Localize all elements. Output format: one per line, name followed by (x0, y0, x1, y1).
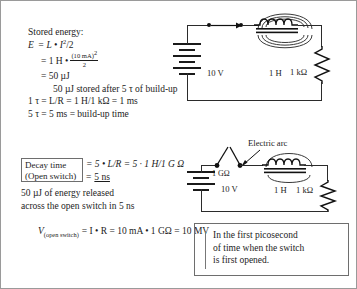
wire-right-lower (321, 82, 322, 101)
decay-time-value: 5 ns (94, 172, 110, 182)
decay-time-label-line-1: Decay time (25, 160, 79, 171)
wire-bottom-battery-bottom-lead (201, 189, 202, 211)
decay-time-label-line-2: (Open switch) (25, 171, 79, 182)
energy-storage-note: 50 µJ stored after 5 τ of build-up (28, 84, 178, 96)
wire-inductor-to-right (298, 25, 322, 26)
battery-bottom-label: 10 V (221, 185, 238, 194)
energy-rhs-LI: = L • I (38, 40, 63, 50)
resistor-bottom-label: 1 kΩ (296, 186, 313, 195)
energy-result: = 50 µJ (28, 71, 178, 83)
decay-equals-sign: = (86, 172, 91, 182)
build-up-time-line: 5 τ = 5 ms = build-up time (28, 109, 178, 121)
circuit-top: 10 V 1 H (186, 19, 351, 111)
current-squared-fraction: (10 mA)22 (70, 52, 98, 68)
callout-line-2: of time when the switch (213, 243, 304, 255)
battery-bottom-plate-short-1 (193, 177, 209, 179)
decay-equation-block: = 5 • L/R = 5 · 1 H/1 G Ω =5 ns (86, 159, 184, 183)
battery-plate-short-1 (179, 49, 195, 51)
time-constant-line: 1 τ = L/R = 1 H/1 kΩ = 1 ms (28, 96, 178, 108)
inductor-bottom-label: 1 H (274, 186, 287, 195)
time-constant-text: 1 τ = L/R = 1 H/1 kΩ = 1 ms (28, 96, 138, 106)
inductor-top (252, 3, 318, 61)
wire-bottom-rail (187, 100, 322, 101)
energy-substitution: = 1 H • (41, 56, 68, 66)
callout-line-1: In the first picosecond (213, 230, 304, 242)
callout-line-3: is first opened. (213, 255, 304, 267)
decay-equation-line-1: = 5 • L/R = 5 · 1 H/1 G Ω (86, 159, 184, 171)
stored-energy-block: Stored energy: E= L • I2/2 = 1 H •(10 mA… (28, 27, 178, 120)
energy-div-2: /2 (66, 40, 73, 50)
switch-gap-resistance-label: 1 GΩ (212, 169, 230, 178)
energy-symbol-E: E (28, 40, 34, 50)
battery-top-label: 10 V (207, 69, 224, 78)
decay-equation-line-2: =5 ns (86, 172, 184, 184)
numerator-text: (10 mA) (71, 52, 94, 59)
decay-note-line-1: 50 µJ of energy released (21, 188, 134, 200)
wire-battery-bottom-lead (187, 73, 188, 101)
wire-right-upper (321, 25, 322, 47)
current-direction-arrow (210, 21, 242, 31)
stored-energy-heading: Stored energy: (28, 27, 178, 39)
battery-bottom-plate-long-2 (187, 183, 215, 185)
figure-canvas: Stored energy: E= L • I2/2 = 1 H •(10 mA… (0, 0, 357, 289)
open-switch-voltage-equation: V(open switch)= I • R = 10 mA • 1 GΩ = 1… (38, 226, 209, 238)
decay-note-block: 50 µJ of energy released across the open… (21, 188, 134, 212)
voltage-equation-body: = I • R = 10 mA • 1 GΩ = 10 MV (82, 226, 209, 236)
fraction-numerator: (10 mA)2 (70, 52, 98, 61)
battery-plate-short-2 (179, 61, 195, 63)
wire-battery-top-lead (187, 25, 188, 44)
inductor-bottom (258, 145, 320, 187)
resistor-top-label: 1 kΩ (290, 68, 307, 77)
wire-bottom-rail-2 (201, 211, 328, 212)
resistor-top (312, 46, 332, 84)
battery-plate-long-3 (173, 67, 201, 69)
resistor-bottom (318, 180, 338, 212)
picosecond-callout-box: In the first picosecond of time when the… (194, 223, 349, 276)
inductor-top-label: 1 H (269, 69, 282, 78)
voltage-subscript: (open switch) (44, 231, 79, 238)
energy-equation-line-2: = 1 H •(10 mA)22 (28, 52, 178, 68)
callout-text-block: In the first picosecond of time when the… (213, 230, 304, 267)
wire-bottom-battery-top-lead (201, 165, 202, 173)
wire-bottom-right-upper (327, 165, 328, 181)
energy-equation-line-1: E= L • I2/2 (28, 40, 178, 52)
callout-vertical-rule (205, 231, 206, 269)
circuit-bottom: Electric arc 10 V 1 GΩ (200, 141, 357, 216)
wire-top-left (187, 25, 209, 26)
wire-bottom-inductor-to-right (304, 165, 328, 166)
numerator-exponent: 2 (94, 49, 97, 56)
decay-note-line-2: across the open switch in 5 ns (21, 201, 134, 213)
fraction-denominator: 2 (70, 61, 98, 69)
battery-plate-long-2 (173, 55, 201, 57)
decay-time-box: Decay time (Open switch) (21, 158, 83, 182)
